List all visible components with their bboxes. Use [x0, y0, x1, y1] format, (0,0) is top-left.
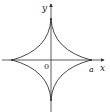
intercept-label-a: a: [89, 65, 94, 74]
cusp-left: [11, 59, 13, 61]
cusp-bottom: [50, 99, 52, 101]
origin-label: 0: [44, 62, 49, 71]
x-axis-label: x: [100, 63, 105, 73]
astroid-diagram: y x a 0: [0, 0, 110, 112]
cusp-right: [90, 59, 92, 61]
astroid-curve: [12, 19, 91, 100]
y-axis-label: y: [41, 3, 48, 13]
cusp-top: [50, 18, 52, 20]
